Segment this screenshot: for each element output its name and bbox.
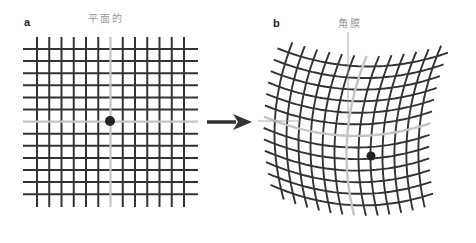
diagram-canvas [0,0,476,243]
right-arrow-icon [207,114,252,130]
center-dot-a [105,116,115,126]
center-dot-b [367,152,376,161]
cornea-warped-grid [264,42,448,216]
